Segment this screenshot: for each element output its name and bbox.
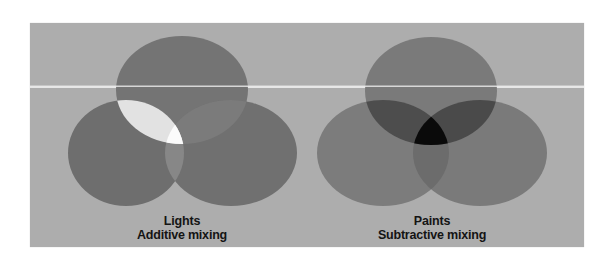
paints-subtitle: Subtractive mixing [332,228,532,242]
paints-caption: Paints Subtractive mixing [332,214,532,242]
lights-caption: Lights Additive mixing [82,214,282,242]
paints-title: Paints [332,214,532,228]
scan-line [30,86,584,88]
lights-subtitle: Additive mixing [82,228,282,242]
lights-diagram [68,36,297,206]
lights-title: Lights [82,214,282,228]
paints-diagram [317,37,547,206]
